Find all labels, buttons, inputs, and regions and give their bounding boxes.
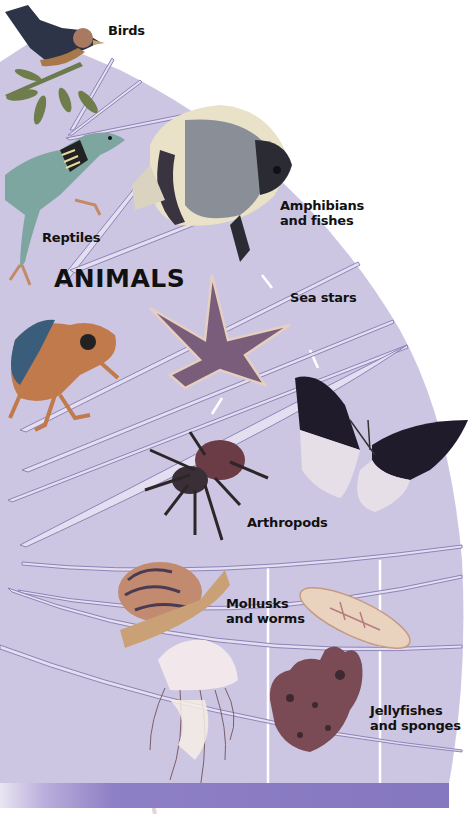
label-sea-stars: Sea stars — [290, 290, 357, 305]
label-jellyfishes-sponges: Jellyfishes and sponges — [370, 703, 461, 733]
label-line: and sponges — [370, 718, 461, 733]
animals-fan-diagram: Birds Reptiles ANIMALS Amphibians and fi… — [0, 0, 471, 814]
label-birds: Birds — [108, 23, 145, 38]
label-reptiles: Reptiles — [42, 230, 100, 245]
label-line: Amphibians — [280, 198, 364, 213]
label-line: Mollusks — [226, 596, 305, 611]
label-amphibians-fishes: Amphibians and fishes — [280, 198, 364, 228]
timeline-bar — [0, 783, 449, 808]
diagram-title: ANIMALS — [54, 264, 185, 293]
label-line: Jellyfishes — [370, 703, 461, 718]
label-line: and fishes — [280, 213, 364, 228]
label-mollusks-worms: Mollusks and worms — [226, 596, 305, 626]
label-line: and worms — [226, 611, 305, 626]
label-arthropods: Arthropods — [247, 515, 328, 530]
fan-background — [0, 0, 471, 814]
